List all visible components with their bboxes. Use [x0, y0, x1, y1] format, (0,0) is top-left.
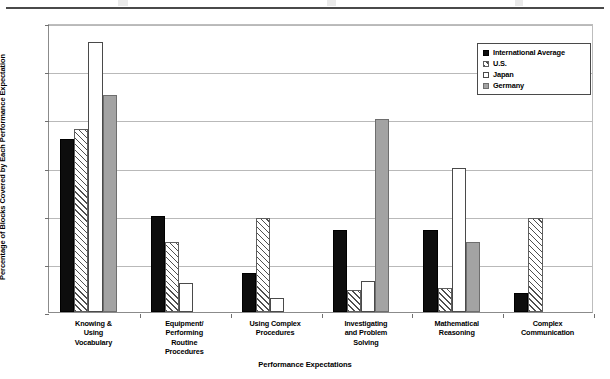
y-tick-mark — [45, 266, 49, 267]
bar — [452, 168, 466, 313]
y-tick-mark — [45, 25, 49, 26]
bar — [88, 42, 102, 312]
legend-item: Japan — [483, 69, 586, 80]
legend-label: International Average — [493, 48, 565, 57]
y-tick-mark — [45, 314, 49, 315]
legend-item: International Average — [483, 47, 586, 58]
x-tick-mark — [140, 314, 141, 318]
legend-item: U.S. — [483, 58, 586, 69]
scan-artifact — [515, 0, 523, 6]
x-tick-mark — [594, 314, 595, 318]
legend-label: Germany — [493, 81, 524, 90]
legend-swatch — [483, 83, 489, 89]
y-tick-mark — [45, 73, 49, 74]
bar — [270, 298, 284, 312]
legend-swatch — [483, 61, 489, 67]
bar — [74, 129, 88, 312]
x-tick-mark — [322, 314, 323, 318]
x-category-label-line: Communication — [494, 328, 601, 337]
x-category-label-line: Procedures — [131, 347, 238, 356]
legend-item: Germany — [483, 80, 586, 91]
bar — [60, 139, 74, 312]
bar — [438, 288, 452, 312]
scan-artifact — [327, 0, 336, 6]
legend-label: U.S. — [493, 59, 507, 68]
bar — [103, 95, 117, 312]
bar — [333, 230, 347, 312]
y-tick-mark — [45, 170, 49, 171]
x-axis-title: Performance Expectations — [0, 360, 610, 369]
gridline — [49, 25, 592, 26]
x-tick-mark — [231, 314, 232, 318]
bar — [242, 273, 256, 312]
bar — [165, 242, 179, 312]
x-category-label: ComplexCommunication — [494, 319, 601, 338]
bar — [179, 283, 193, 312]
bar — [361, 281, 375, 312]
chart-figure: Percentage of Blocks Covered by Each Per… — [0, 0, 610, 379]
bar — [151, 216, 165, 312]
y-axis-title: Percentage of Blocks Covered by Each Per… — [0, 52, 7, 282]
gridline — [49, 121, 592, 122]
y-tick-mark — [45, 121, 49, 122]
chart-legend: International AverageU.S.JapanGermany — [477, 43, 591, 95]
page-divider-rule — [6, 7, 604, 9]
legend-label: Japan — [493, 70, 514, 79]
x-tick-mark — [412, 314, 413, 318]
y-tick-mark — [45, 218, 49, 219]
legend-swatch — [483, 72, 489, 78]
x-category-label-line: Routine — [131, 338, 238, 347]
bar — [423, 230, 437, 312]
gridline — [49, 266, 592, 267]
gridline — [49, 218, 592, 219]
legend-swatch — [483, 50, 489, 56]
scan-artifact — [118, 0, 128, 6]
bar — [256, 218, 270, 312]
gridline — [49, 170, 592, 171]
bar — [375, 119, 389, 312]
x-category-label-line: Solving — [313, 338, 420, 347]
x-tick-mark — [503, 314, 504, 318]
bar — [514, 293, 528, 312]
bar — [466, 242, 480, 312]
bar — [347, 290, 361, 312]
x-category-label-line: Complex — [494, 319, 601, 328]
bar — [528, 218, 542, 312]
